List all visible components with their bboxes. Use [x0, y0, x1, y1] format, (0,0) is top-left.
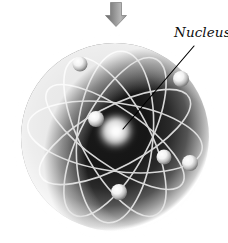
- nucleus: [106, 122, 129, 145]
- atom-illustration: [0, 0, 228, 243]
- electron-bottom: [111, 184, 127, 200]
- electron-inner-left: [88, 111, 104, 127]
- electron-right-mid: [157, 150, 172, 165]
- electron-right-lower: [182, 155, 198, 171]
- atom-diagram-figure: Nucleus: [0, 0, 228, 243]
- electron-right-upper: [173, 71, 189, 87]
- electron-top-left: [73, 57, 88, 72]
- down-arrow-icon: [106, 3, 127, 27]
